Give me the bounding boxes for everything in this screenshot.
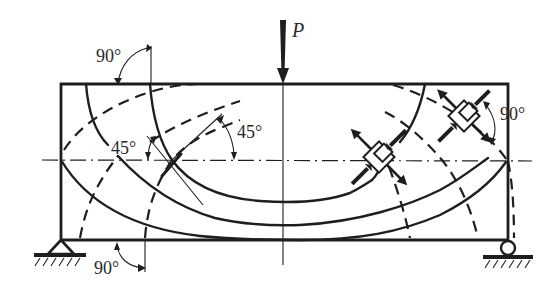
load-arrow-icon bbox=[277, 20, 289, 84]
pin-support-icon bbox=[34, 240, 86, 266]
angle-label-bottom: 90° bbox=[94, 258, 119, 278]
roller-support-icon bbox=[483, 241, 533, 268]
stress-trajectory-diagram: P 90° bbox=[0, 0, 555, 290]
angle-label-left: 45° bbox=[111, 138, 136, 158]
neutral-axis bbox=[42, 160, 532, 161]
angle-label-top-left: 90° bbox=[96, 46, 121, 66]
load-label: P bbox=[291, 19, 304, 41]
angle-45-center bbox=[162, 114, 237, 176]
angle-label-center: 45° bbox=[237, 122, 262, 142]
angle-label-right: 90° bbox=[500, 104, 525, 124]
diagram-svg: P 90° bbox=[0, 0, 555, 290]
